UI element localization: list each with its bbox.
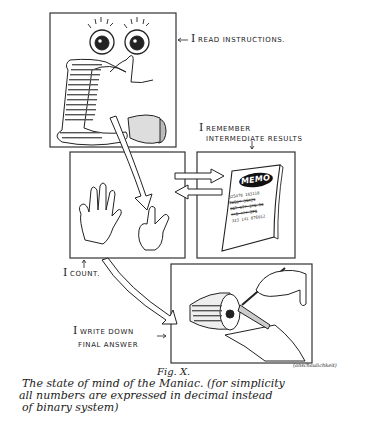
label-count: Icount. — [63, 268, 100, 279]
panel-count-frame — [70, 152, 185, 258]
label-final-answer: final answer — [78, 340, 138, 350]
label-text: read instructions. — [198, 36, 285, 44]
pointer-arrow-write — [157, 334, 166, 338]
label-cap: I — [63, 266, 68, 279]
label-read-instructions: Iread instructions. — [191, 34, 285, 45]
pointer-arrow-count — [82, 260, 86, 268]
caption-annotation: (anschaulichkeit) — [293, 362, 337, 368]
flow-arrow-count-to-write — [102, 258, 177, 324]
label-intermediate-results: intermediate results — [206, 134, 302, 144]
label-text: count. — [70, 270, 100, 278]
figure-title: Fig. X. — [157, 366, 190, 377]
label-cap: I — [73, 324, 78, 337]
caption-line: of binary system) — [22, 402, 285, 414]
label-text: write down — [80, 328, 134, 336]
memo-lines: 325478 103118 7250? 36A21 367 97? 3?6 53… — [228, 190, 266, 224]
label-cap: I — [199, 121, 204, 134]
label-write-down: Iwrite down — [73, 326, 134, 337]
label-text: remember — [206, 125, 251, 133]
pointer-arrow-read — [178, 38, 188, 42]
label-remember: Iremember — [199, 123, 251, 134]
label-cap: I — [191, 32, 196, 45]
caption: The state of mind of the Maniac. (for si… — [22, 378, 285, 414]
